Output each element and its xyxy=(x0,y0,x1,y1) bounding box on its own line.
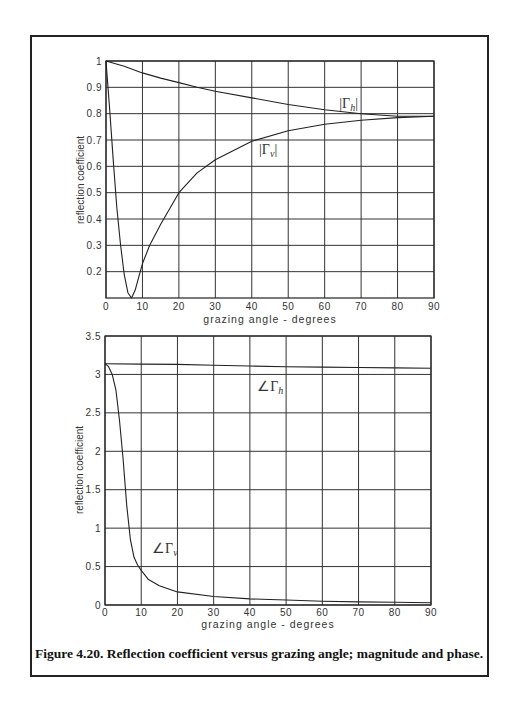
y-tick-label: 0.7 xyxy=(87,135,102,146)
series-annotation: |Γh| xyxy=(339,96,358,113)
y-axis-label: reflection coefficient xyxy=(74,426,85,514)
y-tick-label: 0.2 xyxy=(87,266,102,277)
y-tick-label: 0.5 xyxy=(86,561,101,572)
series-annotation: |Γv| xyxy=(259,142,277,159)
y-tick-label: 2 xyxy=(95,446,101,457)
x-tick-label: 80 xyxy=(389,607,401,618)
series-annotation: ∠Γh xyxy=(257,379,283,396)
x-tick-label: 60 xyxy=(316,607,328,618)
x-tick-label: 10 xyxy=(135,607,147,618)
x-tick-label: 40 xyxy=(246,301,258,312)
y-tick-label: 0 xyxy=(95,600,101,611)
x-tick-label: 70 xyxy=(355,301,367,312)
x-tick-label: 20 xyxy=(173,301,185,312)
x-tick-label: 70 xyxy=(352,607,364,618)
y-tick-label: 2.5 xyxy=(86,407,101,418)
y-axis-label: reflection coefficient xyxy=(75,136,86,224)
y-tick-label: 3.5 xyxy=(86,331,101,342)
x-axis-label: grazing angle - degrees xyxy=(201,618,334,630)
y-tick-label: 1 xyxy=(95,523,101,534)
x-axis-label: grazing angle - degrees xyxy=(203,313,336,325)
y-tick-label: 0.4 xyxy=(87,214,102,225)
x-tick-label: 90 xyxy=(425,607,437,618)
plot-area xyxy=(105,336,431,605)
series-line xyxy=(106,61,434,116)
y-tick-label: 0.6 xyxy=(87,161,102,172)
y-tick-label: 0.9 xyxy=(87,82,102,93)
x-tick-label: 30 xyxy=(209,301,221,312)
series-line xyxy=(105,364,431,369)
x-tick-label: 20 xyxy=(171,607,183,618)
x-tick-label: 0 xyxy=(102,607,108,618)
y-tick-label: 1.5 xyxy=(86,484,101,495)
plot-area xyxy=(106,61,434,298)
figure-caption: Figure 4.20. Reflection coefficient vers… xyxy=(0,646,518,662)
x-tick-label: 90 xyxy=(428,301,440,312)
series-line xyxy=(106,61,434,298)
y-tick-label: 1 xyxy=(96,56,102,67)
x-tick-label: 40 xyxy=(244,607,256,618)
x-tick-label: 50 xyxy=(280,607,292,618)
figure-charts: 01020304050607080900.20.30.40.50.60.70.8… xyxy=(0,0,518,701)
x-tick-label: 80 xyxy=(391,301,403,312)
x-tick-label: 50 xyxy=(282,301,294,312)
x-tick-label: 60 xyxy=(319,301,331,312)
series-annotation: ∠Γv xyxy=(152,541,178,558)
x-tick-label: 10 xyxy=(136,301,148,312)
y-tick-label: 0.8 xyxy=(87,108,102,119)
y-tick-label: 0.5 xyxy=(87,187,102,198)
x-tick-label: 30 xyxy=(208,607,220,618)
y-tick-label: 0.3 xyxy=(87,240,102,251)
y-tick-label: 3 xyxy=(95,369,101,380)
x-tick-label: 0 xyxy=(103,301,109,312)
